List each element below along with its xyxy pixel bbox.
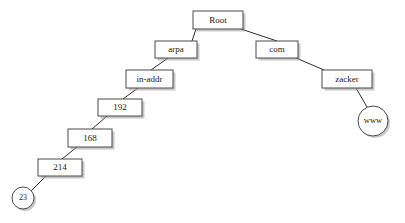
- node-label: 192: [113, 102, 127, 112]
- node-label: www: [364, 115, 383, 125]
- tree-node-n23[interactable]: 23: [12, 187, 36, 211]
- tree-node-arpa[interactable]: arpa: [155, 41, 200, 61]
- dns-namespace-tree-diagram: Rootarpacomin-addrzacker192www16821423: [0, 0, 405, 223]
- tree-node-n192[interactable]: 192: [98, 99, 145, 119]
- tree-node-n214[interactable]: 214: [38, 159, 85, 179]
- node-label: 214: [53, 162, 67, 172]
- tree-edge-zacker-www: [356, 88, 367, 107]
- tree-node-zacker[interactable]: zacker: [322, 70, 375, 91]
- tree-node-n168[interactable]: 168: [68, 129, 115, 150]
- node-label: 23: [19, 193, 27, 202]
- node-label: zacker: [335, 74, 358, 84]
- tree-node-in-addr[interactable]: in-addr: [126, 70, 176, 91]
- tree-node-root[interactable]: Root: [193, 11, 246, 32]
- node-label: arpa: [168, 44, 184, 54]
- node-layer: Rootarpacomin-addrzacker192www16821423: [12, 11, 390, 211]
- node-label: com: [269, 44, 285, 54]
- tree-edge-root-arpa: [192, 29, 196, 41]
- node-label: Root: [209, 15, 227, 25]
- tree-node-com[interactable]: com: [256, 41, 301, 61]
- tree-node-www[interactable]: www: [358, 106, 390, 138]
- node-label: in-addr: [137, 74, 163, 84]
- node-label: 168: [83, 133, 97, 143]
- tree-edge-root-com: [241, 29, 277, 41]
